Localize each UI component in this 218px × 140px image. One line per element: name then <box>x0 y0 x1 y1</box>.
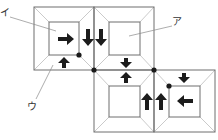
diagram: イ ア ウ <box>0 0 218 140</box>
label-a: ア <box>172 16 182 27</box>
inner-square-2 <box>109 22 140 55</box>
label-i: イ <box>0 7 10 18</box>
arrow-up-icon <box>155 93 167 110</box>
arrow-down-icon <box>120 58 132 68</box>
arrow-down-icon <box>95 29 107 46</box>
dot <box>151 67 156 72</box>
dot <box>76 52 81 57</box>
arrow-up-icon <box>120 72 132 83</box>
arrow-down-icon <box>82 29 94 46</box>
arrow-up-icon <box>58 57 70 68</box>
inner-square-3 <box>109 86 140 117</box>
arrow-down-icon <box>178 73 190 83</box>
label-u: ウ <box>27 101 37 112</box>
dot <box>166 83 171 88</box>
arrow-up-icon <box>141 93 153 110</box>
dot <box>91 67 96 72</box>
